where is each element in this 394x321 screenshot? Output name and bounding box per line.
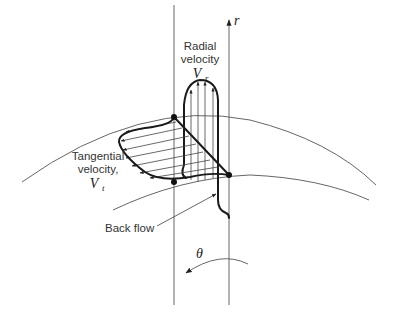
top-wall-point	[171, 114, 177, 120]
profile-diagonal	[174, 117, 229, 175]
svg-text:V: V	[193, 66, 203, 81]
back-flow-leader	[157, 194, 216, 226]
back-flow-label: Back flow	[105, 222, 155, 234]
svg-text:r: r	[205, 73, 209, 83]
svg-text:Radial: Radial	[184, 40, 217, 52]
svg-text:V: V	[90, 176, 100, 191]
theta-label: θ	[196, 246, 203, 261]
radial-velocity-vectors	[191, 82, 213, 182]
r-axis-label: r	[234, 13, 240, 28]
back-flow-profile[interactable]	[218, 172, 229, 218]
svg-text:velocity,: velocity,	[78, 163, 119, 175]
svg-text:velocity: velocity	[181, 53, 220, 65]
lower-surface-point	[171, 179, 177, 185]
surface-point	[226, 172, 232, 178]
boundary-layer-velocity-diagram: r Radial velocity V r Tangential velocit…	[0, 0, 394, 321]
svg-text:t: t	[102, 183, 105, 193]
inner-surface-arc	[113, 175, 369, 210]
radial-velocity-label: Radial velocity V r	[181, 40, 220, 83]
svg-text:Tangential: Tangential	[72, 150, 124, 162]
tangential-velocity-label: Tangential velocity, V t	[72, 150, 124, 193]
